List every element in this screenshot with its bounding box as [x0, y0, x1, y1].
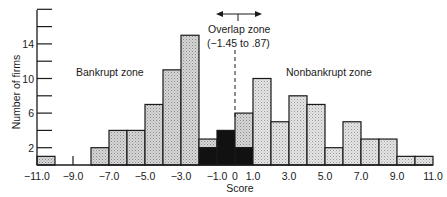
histogram-bar	[127, 130, 145, 165]
x-tick-label: 11.0	[423, 170, 443, 182]
histogram-bar	[397, 156, 415, 165]
overlap-range-double-arrow	[216, 11, 262, 21]
y-tick-label: 2	[28, 142, 34, 154]
x-tick-label: 7.0	[354, 170, 369, 182]
y-axis-label: Number of firms	[10, 55, 22, 130]
histogram-bar	[343, 122, 361, 165]
histogram-bar	[217, 130, 235, 165]
histogram-bar	[181, 35, 199, 165]
x-axis-label: Score	[226, 182, 254, 194]
histogram-bar	[361, 139, 379, 165]
x-tick-label: −7.0	[99, 170, 120, 182]
x-tick-label: 0	[232, 170, 238, 182]
nonbankrupt-zone-label: Nonbankrupt zone	[286, 66, 372, 78]
histogram-bar	[91, 148, 109, 165]
overlap-black-segment	[199, 148, 217, 165]
overlap-zone-range: (−1.45 to .87)	[207, 37, 270, 49]
histogram-bar	[415, 156, 433, 165]
histogram-bar	[271, 122, 289, 165]
overlap-black-segment	[235, 148, 253, 165]
histogram-bar	[145, 104, 163, 165]
histogram-bar	[163, 70, 181, 165]
histogram-bar	[379, 139, 397, 165]
histogram-bar	[253, 79, 271, 166]
histogram-chart: 261014−11.0−9.0−7.0−5.0−3.0−1.001.03.05.…	[0, 0, 447, 197]
overlap-black-segment	[217, 130, 235, 165]
x-tick-label: −1.0	[207, 170, 228, 182]
y-tick-label: 10	[22, 73, 34, 85]
bankrupt-zone-label: Bankrupt zone	[76, 66, 144, 78]
x-tick-label: 1.0	[246, 170, 261, 182]
x-tick-label: −9.0	[63, 170, 84, 182]
x-tick-label: −5.0	[135, 170, 156, 182]
x-tick-label: −3.0	[171, 170, 192, 182]
histogram-bar	[199, 139, 217, 165]
x-tick-label: 3.0	[282, 170, 297, 182]
x-tick-label: 9.0	[390, 170, 405, 182]
x-tick-label: 5.0	[318, 170, 333, 182]
y-tick-label: 6	[28, 107, 34, 119]
histogram-bar	[235, 113, 253, 165]
histogram-bar	[37, 156, 55, 165]
histogram-bar	[325, 148, 343, 165]
histogram-bar	[289, 96, 307, 165]
overlap-zone-title: Overlap zone	[208, 23, 271, 35]
histogram-bar	[307, 104, 325, 165]
histogram-bar	[109, 130, 127, 165]
x-tick-label: −11.0	[24, 170, 50, 182]
y-tick-label: 14	[22, 38, 34, 50]
